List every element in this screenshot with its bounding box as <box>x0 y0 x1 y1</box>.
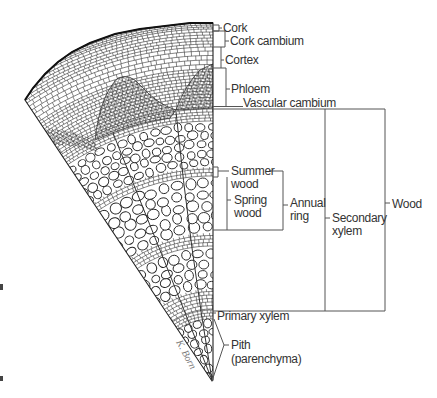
cell <box>207 281 215 288</box>
cell <box>173 205 185 215</box>
cell <box>140 158 150 168</box>
cell <box>180 162 188 170</box>
cell <box>70 184 81 195</box>
cell <box>149 155 161 164</box>
secondary-xylem-bracket <box>325 109 330 311</box>
cell <box>200 158 208 165</box>
cell <box>209 328 219 335</box>
label-secondary-xylem-2: xylem <box>332 224 362 238</box>
cell <box>122 147 133 157</box>
cell <box>110 162 120 171</box>
cell <box>203 319 212 329</box>
cell <box>145 261 158 275</box>
cell <box>172 213 183 225</box>
cell <box>187 151 195 159</box>
cell <box>155 137 164 145</box>
label-annual-ring-1: Annual <box>290 196 326 210</box>
cell <box>207 150 217 158</box>
cell <box>185 178 196 190</box>
cell <box>165 136 176 146</box>
cell <box>184 123 192 132</box>
cell <box>133 227 147 240</box>
cell <box>171 180 184 191</box>
cell <box>197 150 206 158</box>
label-secondary-xylem-1: Secondary <box>332 211 387 225</box>
cell <box>206 249 216 258</box>
cell <box>186 259 197 270</box>
cell <box>195 123 205 131</box>
cell <box>139 290 152 303</box>
cell <box>175 152 185 162</box>
cell <box>152 147 162 156</box>
cell <box>175 135 185 143</box>
cell <box>106 142 116 152</box>
phloem-bracket <box>213 68 230 106</box>
cell <box>133 171 144 180</box>
cell <box>173 225 186 236</box>
label-summer-wood-2: wood <box>230 177 259 191</box>
cortex-bracket <box>221 47 224 68</box>
cell <box>155 162 166 173</box>
cell <box>198 212 210 223</box>
cell <box>204 344 212 354</box>
cell <box>160 126 172 135</box>
cell <box>184 270 195 282</box>
label-pith-2: (parenchyma) <box>231 352 302 366</box>
cell <box>68 194 80 206</box>
label-pith-1: Pith <box>231 338 250 352</box>
cell <box>186 200 199 212</box>
cell <box>184 140 195 149</box>
label-primary-xylem: Primary xylem <box>217 309 289 323</box>
cell <box>101 155 113 166</box>
cell <box>141 148 151 159</box>
label-cork-cambium: Cork cambium <box>230 34 304 48</box>
cell <box>89 170 100 180</box>
stem-cross-section-diagram: Cork Cork cambium Cortex Phloem Vascular… <box>0 0 437 398</box>
cell <box>61 188 73 200</box>
label-annual-ring-2: ring <box>290 209 309 223</box>
label-vascular-cambium: Vascular cambium <box>243 96 336 110</box>
cell <box>143 189 157 201</box>
cell <box>202 201 213 211</box>
cell <box>192 320 202 329</box>
cell <box>151 274 161 284</box>
cell <box>197 191 209 200</box>
cell <box>171 192 183 203</box>
label-summer-wood-1: Summer <box>231 164 275 178</box>
cell <box>201 131 209 139</box>
cell <box>211 132 220 140</box>
label-spring-wood-2: wood <box>233 206 262 220</box>
cell <box>197 178 208 188</box>
cell <box>99 233 115 249</box>
cell <box>197 141 206 148</box>
label-cork: Cork <box>223 21 248 35</box>
cell <box>181 250 192 261</box>
cell <box>145 198 157 210</box>
cell <box>182 281 192 293</box>
cell <box>73 201 84 212</box>
label-cortex: Cortex <box>225 53 259 67</box>
cell <box>208 124 216 131</box>
page-edge-mark <box>0 376 3 381</box>
cell <box>173 274 183 285</box>
cell <box>211 271 220 279</box>
cork-bracket <box>213 25 222 31</box>
cell <box>210 190 222 198</box>
pith-bracket <box>212 319 229 381</box>
cell <box>123 234 135 246</box>
label-wood: Wood <box>392 197 422 211</box>
cell <box>162 146 172 155</box>
cell <box>131 203 145 216</box>
cell <box>55 170 67 182</box>
cell <box>88 217 101 230</box>
cell <box>129 153 141 164</box>
label-phloem: Phloem <box>231 82 270 96</box>
cell <box>59 176 72 189</box>
cell <box>150 128 161 137</box>
phloem-cluster-right <box>176 64 213 110</box>
page-edge-mark <box>0 284 3 290</box>
cell <box>158 183 170 195</box>
cell <box>189 159 198 166</box>
cell <box>199 260 209 269</box>
wedge-illustration <box>0 19 225 382</box>
